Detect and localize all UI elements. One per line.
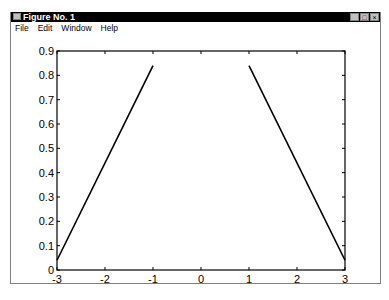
data-line-segment-right xyxy=(249,66,345,261)
y-tick-label: 0.7 xyxy=(39,94,54,106)
axes: -3-2-1012300.10.20.30.40.50.60.70.80.9 xyxy=(39,45,348,285)
x-tick-label: 1 xyxy=(246,273,252,285)
x-tick-label: 0 xyxy=(198,273,204,285)
axes-box xyxy=(57,51,345,270)
plot-area: -3-2-1012300.10.20.30.40.50.60.70.80.9 xyxy=(0,0,389,300)
y-tick-label: 0.8 xyxy=(39,69,54,81)
data-lines xyxy=(57,66,345,261)
x-tick-label: -2 xyxy=(100,273,110,285)
y-tick-label: 0.2 xyxy=(39,215,54,227)
y-tick-label: 0.1 xyxy=(39,240,54,252)
y-tick-label: 0.5 xyxy=(39,142,54,154)
x-tick-label: 3 xyxy=(342,273,348,285)
y-tick-label: 0.6 xyxy=(39,118,54,130)
data-line-segment-left xyxy=(57,66,153,261)
y-tick-label: 0.3 xyxy=(39,191,54,203)
y-tick-label: 0.9 xyxy=(39,45,54,57)
x-tick-label: 2 xyxy=(294,273,300,285)
y-tick-label: 0.4 xyxy=(39,167,54,179)
x-tick-label: -1 xyxy=(148,273,158,285)
y-tick-label: 0 xyxy=(48,264,54,276)
